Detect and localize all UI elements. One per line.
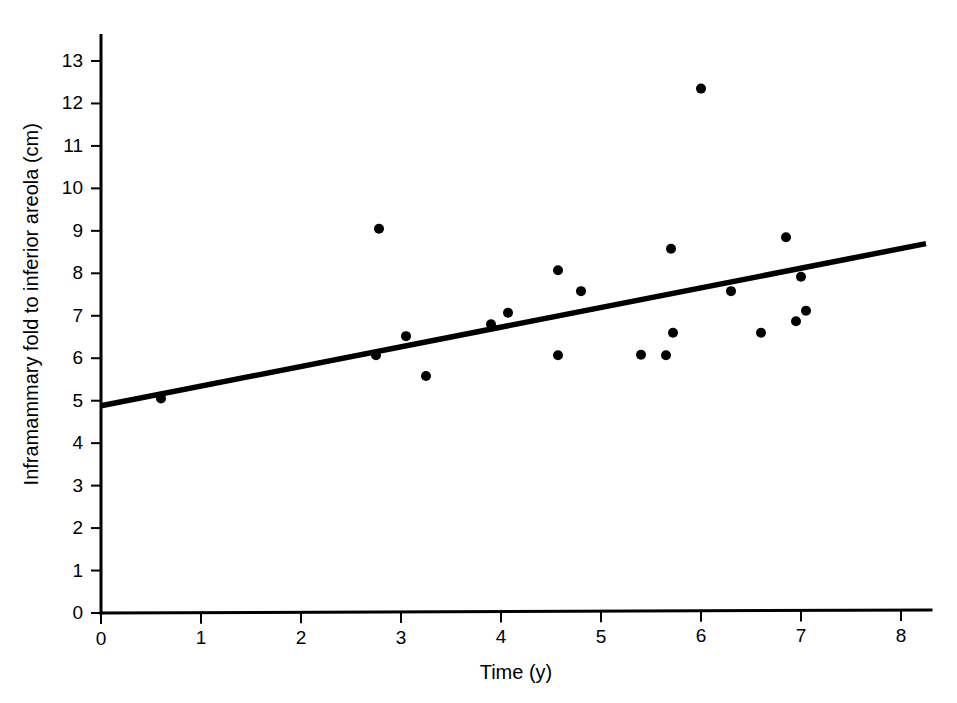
x-tick-label: 6 bbox=[696, 625, 707, 646]
y-tick-label: 5 bbox=[72, 390, 83, 411]
x-axis-line bbox=[101, 610, 931, 613]
x-tick-label: 4 bbox=[496, 626, 507, 647]
x-tick-label: 3 bbox=[396, 627, 407, 648]
scatter-plot-figure: 012345678910111213 012345678 Time (y) In… bbox=[0, 0, 957, 703]
data-point bbox=[666, 244, 676, 254]
data-points-group bbox=[156, 84, 811, 404]
y-tick-label: 8 bbox=[72, 262, 83, 283]
data-point bbox=[791, 316, 801, 326]
data-point bbox=[781, 232, 791, 242]
y-tick-label: 1 bbox=[72, 560, 83, 581]
data-point bbox=[401, 331, 411, 341]
data-point bbox=[374, 224, 384, 234]
y-tick-label: 7 bbox=[72, 305, 83, 326]
y-axis-ticks: 012345678910111213 bbox=[62, 50, 101, 623]
y-tick-label: 2 bbox=[72, 517, 83, 538]
data-point bbox=[756, 328, 766, 338]
y-axis-title: Inframammary fold to inferior areola (cm… bbox=[20, 123, 42, 485]
x-axis-title: Time (y) bbox=[480, 661, 553, 683]
data-point bbox=[668, 328, 678, 338]
x-tick-label: 2 bbox=[296, 627, 307, 648]
x-tick-label: 8 bbox=[896, 625, 907, 646]
y-tick-label: 0 bbox=[72, 602, 83, 623]
y-tick-label: 4 bbox=[72, 432, 83, 453]
data-point bbox=[726, 286, 736, 296]
y-tick-label: 3 bbox=[72, 475, 83, 496]
regression-line bbox=[101, 244, 926, 406]
data-point bbox=[696, 84, 706, 94]
data-point bbox=[576, 286, 586, 296]
data-point bbox=[636, 350, 646, 360]
data-point bbox=[553, 350, 563, 360]
x-tick-label: 7 bbox=[796, 625, 807, 646]
x-axis-ticks: 012345678 bbox=[96, 610, 907, 648]
y-tick-label: 11 bbox=[63, 135, 83, 156]
data-point bbox=[796, 272, 806, 282]
data-point bbox=[503, 308, 513, 318]
data-point bbox=[156, 394, 166, 404]
plot-canvas: 012345678910111213 012345678 Time (y) In… bbox=[0, 0, 957, 703]
y-tick-label: 9 bbox=[72, 220, 83, 241]
x-tick-label: 0 bbox=[96, 628, 107, 649]
y-tick-label: 12 bbox=[62, 92, 83, 113]
y-tick-label: 13 bbox=[62, 50, 83, 71]
data-point bbox=[661, 350, 671, 360]
data-point bbox=[553, 265, 563, 275]
y-tick-label: 10 bbox=[62, 177, 83, 198]
data-point bbox=[421, 371, 431, 381]
data-point bbox=[801, 306, 811, 316]
y-tick-label: 6 bbox=[72, 347, 83, 368]
x-tick-label: 5 bbox=[596, 626, 607, 647]
data-point bbox=[371, 350, 381, 360]
data-point bbox=[486, 319, 496, 329]
x-tick-label: 1 bbox=[196, 627, 207, 648]
